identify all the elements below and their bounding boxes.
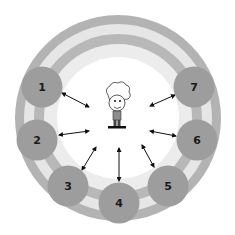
node-5: 5 [148,166,189,207]
node-3: 3 [48,166,89,207]
node-label: 3 [64,180,72,193]
node-2: 2 [17,120,58,161]
node-7: 7 [174,67,215,108]
node-label: 7 [190,81,198,94]
node-4: 4 [99,183,140,224]
node-6: 6 [177,120,218,161]
node-label: 2 [33,134,41,147]
ring-diagram: 1234567 [0,0,235,235]
node-label: 1 [38,81,46,94]
node-label: 5 [164,180,172,193]
node-label: 6 [193,134,201,147]
node-1: 1 [22,67,63,108]
node-label: 4 [115,197,123,210]
